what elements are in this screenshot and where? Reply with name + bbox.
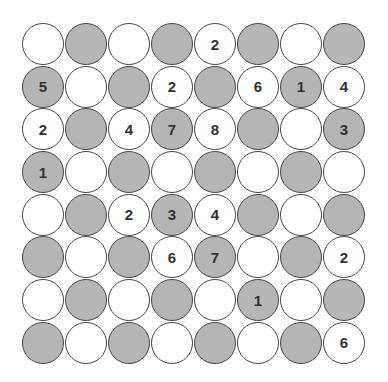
grid-cell-r3-c6[interactable] <box>280 151 322 193</box>
grid-cell-r0-c1[interactable] <box>65 23 107 65</box>
grid-cell-r5-c4[interactable]: 7 <box>194 236 236 278</box>
grid-cell-r5-c1[interactable] <box>65 236 107 278</box>
grid-cell-r2-c0[interactable]: 2 <box>22 108 64 150</box>
grid-cell-r1-c0[interactable]: 5 <box>22 66 64 108</box>
grid-cell-r4-c7[interactable] <box>323 194 365 236</box>
grid-cell-r7-c3[interactable] <box>151 322 193 364</box>
grid-cell-r0-c3[interactable] <box>151 23 193 65</box>
grid-cell-r7-c0[interactable] <box>22 322 64 364</box>
grid-cell-r3-c2[interactable] <box>108 151 150 193</box>
grid-cell-r1-c2[interactable] <box>108 66 150 108</box>
grid-cell-r5-c6[interactable] <box>280 236 322 278</box>
grid-cell-r3-c5[interactable] <box>237 151 279 193</box>
grid-cell-r1-c6[interactable]: 1 <box>280 66 322 108</box>
grid-cell-r4-c0[interactable] <box>22 194 64 236</box>
grid-cell-r1-c4[interactable] <box>194 66 236 108</box>
grid-cell-r0-c6[interactable] <box>280 23 322 65</box>
grid-cell-r2-c5[interactable] <box>237 108 279 150</box>
grid-cell-r4-c1[interactable] <box>65 194 107 236</box>
grid-cell-r3-c1[interactable] <box>65 151 107 193</box>
grid-cell-r7-c1[interactable] <box>65 322 107 364</box>
grid-cell-r1-c7[interactable]: 4 <box>323 66 365 108</box>
grid-cell-r5-c2[interactable] <box>108 236 150 278</box>
grid-cell-r7-c6[interactable] <box>280 322 322 364</box>
grid-cell-r6-c4[interactable] <box>194 279 236 321</box>
grid-cell-r7-c7[interactable]: 6 <box>323 322 365 364</box>
grid-cell-r4-c2[interactable]: 2 <box>108 194 150 236</box>
grid-cell-r6-c0[interactable] <box>22 279 64 321</box>
grid-cell-r7-c2[interactable] <box>108 322 150 364</box>
grid-cell-r0-c2[interactable] <box>108 23 150 65</box>
grid-cell-r6-c6[interactable] <box>280 279 322 321</box>
grid-cell-r1-c5[interactable]: 6 <box>237 66 279 108</box>
grid-cell-r2-c3[interactable]: 7 <box>151 108 193 150</box>
grid-cell-r7-c4[interactable] <box>194 322 236 364</box>
puzzle-board: 25261424783123467216 <box>22 23 366 365</box>
grid-cell-r7-c5[interactable] <box>237 322 279 364</box>
grid-cell-r0-c5[interactable] <box>237 23 279 65</box>
grid-cell-r5-c7[interactable]: 2 <box>323 236 365 278</box>
grid-cell-r0-c7[interactable] <box>323 23 365 65</box>
grid-cell-r6-c2[interactable] <box>108 279 150 321</box>
grid-cell-r4-c6[interactable] <box>280 194 322 236</box>
grid-cell-r2-c4[interactable]: 8 <box>194 108 236 150</box>
grid-cell-r6-c1[interactable] <box>65 279 107 321</box>
grid-cell-r2-c2[interactable]: 4 <box>108 108 150 150</box>
grid-cell-r2-c6[interactable] <box>280 108 322 150</box>
grid-cell-r0-c4[interactable]: 2 <box>194 23 236 65</box>
grid-cell-r4-c4[interactable]: 4 <box>194 194 236 236</box>
grid-cell-r5-c5[interactable] <box>237 236 279 278</box>
grid-cell-r2-c1[interactable] <box>65 108 107 150</box>
grid-cell-r3-c0[interactable]: 1 <box>22 151 64 193</box>
grid-cell-r3-c4[interactable] <box>194 151 236 193</box>
grid-cell-r3-c3[interactable] <box>151 151 193 193</box>
grid-cell-r5-c3[interactable]: 6 <box>151 236 193 278</box>
grid-cell-r4-c3[interactable]: 3 <box>151 194 193 236</box>
grid-cell-r1-c3[interactable]: 2 <box>151 66 193 108</box>
grid-cell-r0-c0[interactable] <box>22 23 64 65</box>
grid-cell-r6-c7[interactable] <box>323 279 365 321</box>
grid-cell-r5-c0[interactable] <box>22 236 64 278</box>
grid-cell-r2-c7[interactable]: 3 <box>323 108 365 150</box>
grid-cell-r1-c1[interactable] <box>65 66 107 108</box>
grid-cell-r6-c5[interactable]: 1 <box>237 279 279 321</box>
grid-cell-r4-c5[interactable] <box>237 194 279 236</box>
grid-cell-r3-c7[interactable] <box>323 151 365 193</box>
grid-cell-r6-c3[interactable] <box>151 279 193 321</box>
